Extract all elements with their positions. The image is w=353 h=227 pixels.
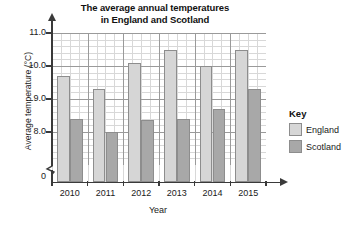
x-tick-3	[158, 181, 159, 186]
x-tick-2	[123, 181, 124, 186]
light-grey-swatch	[289, 123, 302, 136]
axis-break-squiggle-icon	[45, 163, 58, 175]
legend: Key EnglandScotland	[289, 108, 353, 157]
dark-grey-swatch	[289, 140, 302, 153]
bar-scotland-2010	[70, 119, 83, 182]
x-tick-label-2013: 2013	[157, 188, 197, 198]
x-tick-label-2014: 2014	[193, 188, 233, 198]
y-axis-title: Average temperature (°C)	[23, 26, 33, 176]
legend-label-england: England	[306, 125, 339, 135]
legend-title: Key	[289, 108, 353, 119]
x-tick-label-2012: 2012	[121, 188, 161, 198]
y-tick-10.0	[46, 65, 52, 66]
bar-england-2011	[93, 89, 106, 182]
x-tick-1	[87, 181, 88, 186]
bar-england-2015	[235, 50, 248, 183]
x-axis-title: Year	[98, 205, 218, 215]
bar-scotland-2011	[106, 132, 119, 182]
x-tick-5	[230, 181, 231, 186]
legend-label-scotland: Scotland	[306, 142, 341, 152]
y-axis-line	[51, 20, 53, 166]
x-tick-label-2010: 2010	[50, 188, 90, 198]
bar-england-2013	[164, 50, 177, 183]
x-axis-line	[51, 182, 281, 184]
chart-title: The average annual temperatures in Engla…	[60, 2, 250, 25]
legend-item-scotland: Scotland	[289, 140, 353, 153]
x-tick-4	[194, 181, 195, 186]
x-tick-label-2011: 2011	[86, 188, 126, 198]
bar-england-2012	[128, 63, 141, 182]
y-tick-9.0	[46, 98, 52, 99]
chart-title-line-2: in England and Scotland	[60, 14, 250, 26]
x-tick-6	[265, 181, 266, 186]
arrow-right-icon	[280, 178, 288, 186]
bar-england-2014	[200, 66, 213, 182]
legend-item-england: England	[289, 123, 353, 136]
y-tick-label-zero: 0	[41, 171, 46, 181]
x-tick-0	[51, 181, 52, 186]
bar-england-2010	[57, 76, 70, 182]
bar-group-container	[52, 33, 266, 182]
arrow-up-icon	[48, 13, 56, 21]
bar-scotland-2015	[248, 89, 261, 182]
x-tick-label-2015: 2015	[228, 188, 268, 198]
legend-entries: EnglandScotland	[289, 123, 353, 153]
y-tick-11.0	[46, 32, 52, 33]
y-tick-label-8.0: 8.0	[33, 126, 46, 136]
bar-chart: The average annual temperatures in Engla…	[0, 0, 353, 227]
bar-scotland-2012	[141, 120, 154, 182]
bar-scotland-2013	[177, 119, 190, 182]
chart-title-line-1: The average annual temperatures	[60, 2, 250, 14]
y-tick-8.0	[46, 131, 52, 132]
y-tick-label-9.0: 9.0	[33, 93, 46, 103]
bar-scotland-2014	[213, 109, 226, 182]
